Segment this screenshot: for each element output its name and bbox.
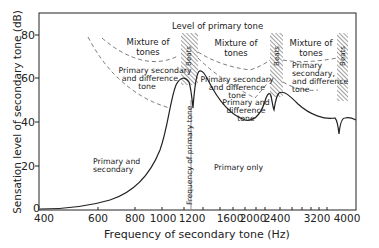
psd-label-1c: tone [138, 82, 156, 91]
mixture-label-2b: tones [224, 48, 248, 58]
y-axis [35, 35, 39, 166]
beats-region-3 [337, 33, 348, 101]
x-tick-2000: 2000 [240, 212, 267, 224]
beats-label-1: Beats [185, 46, 193, 66]
mixture-label-2a: Mixture of [215, 38, 259, 48]
y-tick-40: 40 [21, 116, 35, 129]
x-tick-800: 800 [125, 212, 145, 224]
masking-chart: 80 60 40 20 0 400 600 800 1000 1200 1600… [0, 0, 379, 248]
primary-only-label: Primary only [214, 163, 263, 172]
freq-primary-label: Frequency of primary tone [185, 105, 194, 205]
mixture-label-1a: Mixture of [127, 37, 171, 47]
mixture-label-3b: tones [299, 48, 323, 58]
y-tick-20: 20 [21, 160, 35, 173]
beats-label-3: Beats [339, 46, 347, 66]
x-tick-1200: 1200 [179, 212, 206, 224]
x-tick-400: 400 [34, 212, 54, 224]
y-tick-80: 80 [21, 29, 35, 42]
x-tick-600: 600 [88, 212, 108, 224]
mixture-label-3a: Mixture of [290, 38, 334, 48]
x-tick-2400: 2400 [264, 212, 291, 224]
level-primary-label: Level of primary tone [172, 21, 263, 31]
beats-label-2: Beats [273, 46, 281, 66]
x-tick-1000: 1000 [150, 212, 177, 224]
psd-label-3d: tone [292, 85, 310, 94]
mixture-label-1b: tones [136, 47, 160, 57]
y-tick-60: 60 [21, 72, 35, 85]
pd-label-c: tone [237, 114, 255, 123]
x-tick-3200: 3200 [304, 212, 331, 224]
x-tick-4000: 4000 [334, 212, 361, 224]
y-axis-title: Sensation level of secondary tone (dB) [11, 10, 23, 214]
ps-label-b: secondary [93, 165, 134, 174]
x-axis-title: Frequency of secondary tone (Hz) [104, 228, 290, 241]
